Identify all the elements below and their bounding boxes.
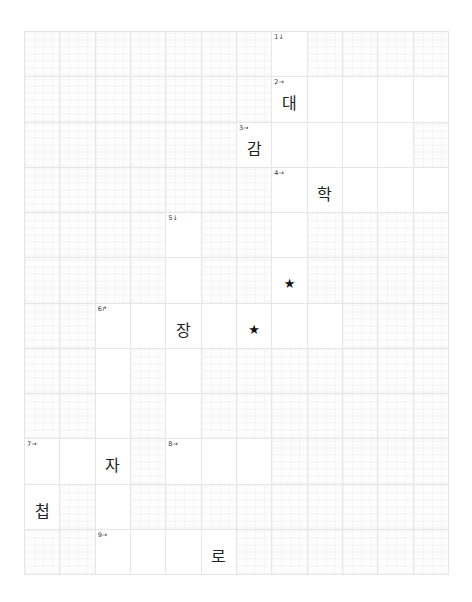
answer-cell[interactable]: [378, 77, 413, 122]
blocked-cell: [308, 32, 343, 77]
answer-cell[interactable]: [96, 394, 131, 439]
answer-cell[interactable]: [166, 349, 201, 394]
blocked-cell: [414, 530, 449, 575]
blocked-cell: [414, 123, 449, 168]
answer-cell[interactable]: 학: [308, 168, 343, 213]
answer-cell[interactable]: [131, 304, 166, 349]
blocked-cell: [60, 32, 95, 77]
answer-cell[interactable]: ★: [237, 304, 272, 349]
clue-number: 8→: [168, 441, 178, 448]
answer-cell[interactable]: [343, 168, 378, 213]
blocked-cell: [343, 394, 378, 439]
answer-cell[interactable]: [166, 394, 201, 439]
crossword-grid: 1↓2→대3→감4→학5↓★6↱장★7→자8→첩9→로: [24, 31, 449, 575]
blocked-cell: [96, 32, 131, 77]
blocked-cell: [202, 258, 237, 303]
blocked-cell: [131, 168, 166, 213]
answer-cell[interactable]: [378, 123, 413, 168]
blocked-cell: [343, 530, 378, 575]
answer-cell[interactable]: [378, 168, 413, 213]
blocked-cell: [308, 394, 343, 439]
answer-cell[interactable]: [96, 349, 131, 394]
answer-cell[interactable]: [308, 77, 343, 122]
answer-cell[interactable]: [272, 123, 307, 168]
blocked-cell: [202, 77, 237, 122]
answer-cell[interactable]: [166, 530, 201, 575]
blocked-cell: [166, 32, 201, 77]
blocked-cell: [378, 32, 413, 77]
blocked-cell: [414, 485, 449, 530]
answer-cell[interactable]: 7→: [25, 439, 60, 484]
blocked-cell: [96, 77, 131, 122]
blocked-cell: [96, 123, 131, 168]
cell-letter: 감: [237, 136, 271, 160]
answer-cell[interactable]: [60, 439, 95, 484]
answer-cell[interactable]: 2→대: [272, 77, 307, 122]
answer-cell[interactable]: [308, 123, 343, 168]
blocked-cell: [25, 530, 60, 575]
blocked-cell: [166, 485, 201, 530]
answer-cell[interactable]: [343, 123, 378, 168]
blocked-cell: [237, 168, 272, 213]
blocked-cell: [237, 394, 272, 439]
answer-cell[interactable]: 5↓: [166, 213, 201, 258]
blocked-cell: [378, 304, 413, 349]
clue-number: 6↱: [98, 306, 108, 313]
cell-letter: 자: [96, 452, 130, 476]
answer-cell[interactable]: [414, 168, 449, 213]
blocked-cell: [202, 213, 237, 258]
blocked-cell: [60, 394, 95, 439]
blocked-cell: [272, 349, 307, 394]
answer-cell[interactable]: 9→: [96, 530, 131, 575]
answer-cell[interactable]: [414, 77, 449, 122]
cell-letter: 로: [202, 543, 236, 567]
blocked-cell: [202, 168, 237, 213]
blocked-cell: [202, 394, 237, 439]
blocked-cell: [60, 123, 95, 168]
answer-cell[interactable]: 8→: [166, 439, 201, 484]
blocked-cell: [237, 213, 272, 258]
blocked-cell: [202, 32, 237, 77]
blocked-cell: [202, 123, 237, 168]
answer-cell[interactable]: [272, 304, 307, 349]
answer-cell[interactable]: 1↓: [272, 32, 307, 77]
answer-cell[interactable]: 첩: [25, 485, 60, 530]
answer-cell[interactable]: [343, 77, 378, 122]
blocked-cell: [272, 530, 307, 575]
answer-cell[interactable]: 자: [96, 439, 131, 484]
blocked-cell: [131, 32, 166, 77]
answer-cell[interactable]: ★: [272, 258, 307, 303]
answer-cell[interactable]: [237, 439, 272, 484]
blocked-cell: [96, 258, 131, 303]
blocked-cell: [414, 304, 449, 349]
blocked-cell: [237, 530, 272, 575]
blocked-cell: [308, 530, 343, 575]
star-icon: ★: [237, 321, 271, 336]
blocked-cell: [25, 258, 60, 303]
blocked-cell: [414, 439, 449, 484]
answer-cell[interactable]: 로: [202, 530, 237, 575]
answer-cell[interactable]: 6↱: [96, 304, 131, 349]
blocked-cell: [25, 213, 60, 258]
blocked-cell: [308, 258, 343, 303]
answer-cell[interactable]: [131, 530, 166, 575]
blocked-cell: [414, 349, 449, 394]
answer-cell[interactable]: 장: [166, 304, 201, 349]
answer-cell[interactable]: [272, 213, 307, 258]
answer-cell[interactable]: [166, 258, 201, 303]
blocked-cell: [378, 258, 413, 303]
blocked-cell: [378, 530, 413, 575]
answer-cell[interactable]: 3→감: [237, 123, 272, 168]
cell-letter: 장: [166, 317, 200, 341]
answer-cell[interactable]: [96, 485, 131, 530]
blocked-cell: [131, 258, 166, 303]
answer-cell[interactable]: [202, 304, 237, 349]
blocked-cell: [131, 77, 166, 122]
clue-number: 7→: [27, 441, 37, 448]
blocked-cell: [272, 485, 307, 530]
answer-cell[interactable]: [202, 439, 237, 484]
blocked-cell: [308, 213, 343, 258]
answer-cell[interactable]: [308, 304, 343, 349]
answer-cell[interactable]: 4→: [272, 168, 307, 213]
blocked-cell: [96, 168, 131, 213]
